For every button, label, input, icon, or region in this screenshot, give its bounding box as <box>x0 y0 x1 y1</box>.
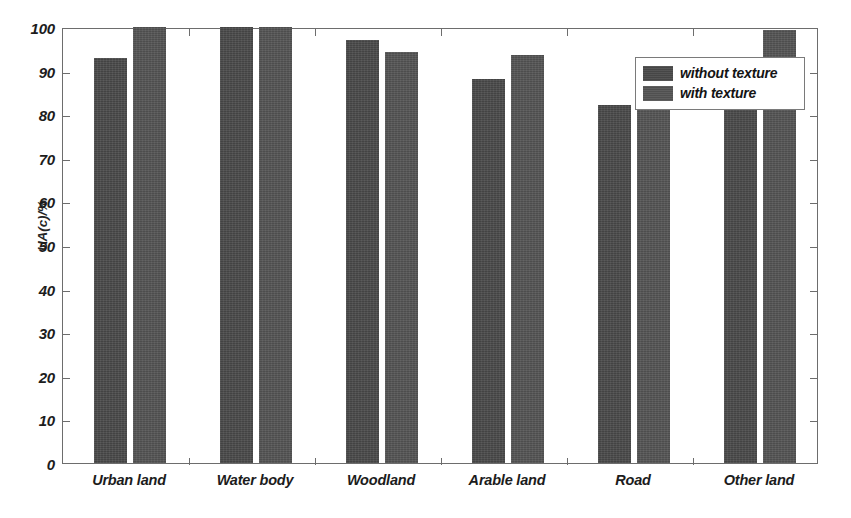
y-axis-tick-label: 30 <box>11 325 55 342</box>
y-axis-tick-mark <box>810 247 817 248</box>
bar <box>511 55 544 463</box>
legend-entry: with texture <box>643 83 796 103</box>
x-axis-category-label: Road <box>615 472 650 488</box>
y-axis-tick-mark <box>63 334 70 335</box>
bar <box>133 27 166 463</box>
y-axis-tick-label: 90 <box>11 63 55 80</box>
chart-figure: UA(c)/% 0102030405060708090100 without t… <box>0 0 851 518</box>
chart-legend: without texturewith texture <box>635 57 805 110</box>
x-axis-category-label: Woodland <box>347 472 415 488</box>
bar <box>598 105 631 463</box>
x-axis-tick-mark <box>315 458 316 465</box>
y-axis-tick-mark <box>810 291 817 292</box>
y-axis-tick-label: 100 <box>11 20 55 37</box>
legend-entry: without texture <box>643 63 796 83</box>
y-axis-tick-label: 70 <box>11 150 55 167</box>
bar <box>472 79 505 463</box>
x-axis-tick-mark <box>189 458 190 465</box>
bar <box>94 58 127 463</box>
y-axis-tick-label: 80 <box>11 107 55 124</box>
y-axis-tick-label: 40 <box>11 281 55 298</box>
y-axis-tick-label: 0 <box>11 456 55 473</box>
x-axis-tick-mark <box>567 458 568 465</box>
y-axis-tick-mark <box>810 378 817 379</box>
x-axis-category-label: Water body <box>217 472 294 488</box>
y-axis-tick-label: 10 <box>11 412 55 429</box>
x-axis-tick-mark <box>315 29 316 36</box>
y-axis-tick-mark <box>63 116 70 117</box>
bar <box>724 66 757 463</box>
y-axis-tick-mark <box>63 291 70 292</box>
y-axis-tick-mark <box>810 73 817 74</box>
x-axis-category-label: Urban land <box>92 472 166 488</box>
y-axis-tick-mark <box>63 247 70 248</box>
x-axis-tick-mark <box>441 458 442 465</box>
x-axis-tick-mark <box>441 29 442 36</box>
y-axis-tick-labels: 0102030405060708090100 <box>0 0 55 518</box>
y-axis-tick-mark <box>810 421 817 422</box>
x-axis-tick-mark <box>189 29 190 36</box>
y-axis-tick-mark <box>63 203 70 204</box>
y-axis-tick-label: 20 <box>11 368 55 385</box>
bar <box>346 40 379 463</box>
y-axis-tick-mark <box>63 160 70 161</box>
y-axis-tick-mark <box>810 203 817 204</box>
y-axis-tick-mark <box>63 378 70 379</box>
bar <box>259 27 292 463</box>
legend-swatch-icon <box>643 66 673 81</box>
plot-area: without texturewith texture <box>62 28 818 464</box>
x-axis-tick-mark <box>693 29 694 36</box>
y-axis-tick-mark <box>810 334 817 335</box>
x-axis-category-label: Other land <box>724 472 795 488</box>
y-axis-tick-mark <box>63 421 70 422</box>
x-axis-tick-mark <box>693 458 694 465</box>
bar <box>385 52 418 463</box>
legend-label: with texture <box>680 85 756 101</box>
x-axis-tick-mark <box>567 29 568 36</box>
bar <box>637 91 670 463</box>
y-axis-tick-mark <box>63 73 70 74</box>
legend-label: without texture <box>680 65 777 81</box>
y-axis-tick-mark <box>810 116 817 117</box>
x-axis-category-label: Arable land <box>469 472 546 488</box>
y-axis-tick-mark <box>810 160 817 161</box>
bar <box>220 27 253 463</box>
y-axis-tick-label: 50 <box>11 238 55 255</box>
y-axis-tick-label: 60 <box>11 194 55 211</box>
legend-swatch-icon <box>643 86 673 101</box>
